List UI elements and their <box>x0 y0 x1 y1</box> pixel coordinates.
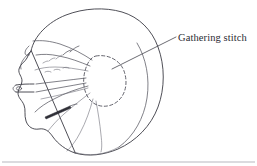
bag-inner-contour <box>74 43 148 155</box>
fabric-bag-outline <box>18 9 163 155</box>
gathering-stitch-label: Gathering stitch <box>178 31 247 44</box>
figure-drawing-svg <box>0 0 257 166</box>
stitch-marks <box>45 67 69 72</box>
figure-illustration: Gathering stitch <box>0 0 257 166</box>
leader-line <box>112 37 176 69</box>
sewing-needle <box>13 84 77 119</box>
gathering-stitch-oval <box>84 56 126 107</box>
